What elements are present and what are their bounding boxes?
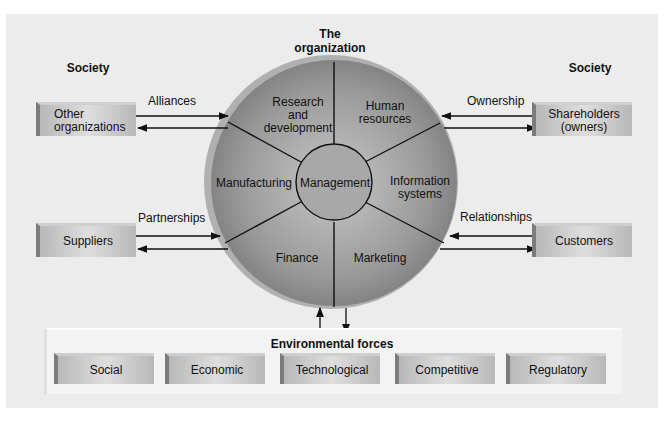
suppliers-box: Suppliers bbox=[36, 223, 136, 257]
segment-finance: Finance bbox=[262, 251, 332, 265]
force-social: Social bbox=[54, 353, 154, 384]
force-economic: Economic bbox=[165, 353, 265, 384]
force-competitive: Competitive bbox=[395, 353, 495, 384]
alliances-label: Alliances bbox=[148, 94, 196, 108]
force-technological: Technological bbox=[280, 353, 380, 384]
customers-box: Customers bbox=[532, 223, 632, 257]
environmental-forces-title: Environmental forces bbox=[232, 337, 432, 351]
management-core: Management bbox=[297, 176, 373, 190]
force-regulatory: Regulatory bbox=[506, 353, 606, 384]
partnerships-label: Partnerships bbox=[138, 211, 205, 225]
other-organizations-box: Other organizations bbox=[36, 102, 136, 136]
shareholders-box: Shareholders (owners) bbox=[532, 102, 632, 136]
segment-information-systems: Information systems bbox=[380, 175, 460, 201]
segment-manufacturing: Manufacturing bbox=[210, 176, 298, 190]
segment-marketing: Marketing bbox=[345, 251, 415, 265]
ownership-label: Ownership bbox=[467, 94, 524, 108]
relationships-label: Relationships bbox=[460, 210, 532, 224]
segment-human-resources: Human resources bbox=[345, 100, 425, 126]
segment-research-development: Research and development bbox=[258, 96, 338, 135]
